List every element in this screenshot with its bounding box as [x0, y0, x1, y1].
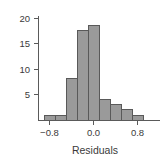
histogram-bar [55, 115, 66, 120]
histogram-bar [132, 115, 143, 120]
histogram-bar [110, 105, 121, 121]
histogram-bar [44, 115, 55, 120]
x-tick-label-neg08: −0.8 [40, 127, 59, 138]
y-tick-label-15: 15 [19, 38, 30, 49]
histogram-plot-area: 20 15 10 5 −0.8 0.0 0.8 Residuals [0, 0, 167, 164]
y-tick-label-10: 10 [19, 64, 30, 75]
y-tick-label-5: 5 [25, 89, 30, 100]
y-tick-label-20: 20 [19, 13, 30, 24]
x-axis-title: Residuals [72, 144, 118, 156]
histogram-bar [121, 109, 132, 120]
histogram-bar [66, 79, 77, 121]
x-tick-label-08: 0.8 [131, 127, 144, 138]
histogram-bar [99, 100, 110, 121]
histogram-bar [88, 26, 99, 121]
histogram-chart: 20 15 10 5 −0.8 0.0 0.8 Residuals [0, 0, 167, 164]
x-tick-label-00: 0.0 [87, 127, 100, 138]
histogram-bar [77, 31, 88, 121]
